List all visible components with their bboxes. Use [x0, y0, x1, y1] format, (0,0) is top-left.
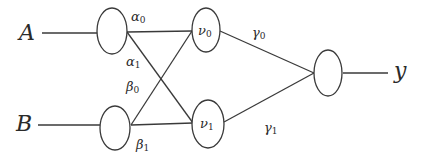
- edge-beta0: [131, 31, 192, 125]
- output-node: [314, 50, 342, 96]
- label-beta1: β1: [135, 137, 149, 153]
- label-beta0: β0: [125, 79, 140, 95]
- input-node-A: [97, 8, 127, 54]
- neural-network-diagram: A B y ν0 ν1 α0 α1 β0 β1 γ0 γ1: [0, 0, 430, 163]
- edge-beta1: [131, 123, 193, 125]
- label-y: y: [393, 58, 407, 83]
- label-A: A: [17, 20, 35, 45]
- label-gamma1: γ1: [264, 120, 278, 136]
- diagram-canvas: A B y ν0 ν1 α0 α1 β0 β1 γ0 γ1: [0, 0, 430, 163]
- label-B: B: [15, 111, 32, 136]
- edge-gamma0: [220, 31, 314, 73]
- edge-gamma1: [224, 73, 314, 122]
- input-node-B: [100, 106, 130, 150]
- label-alpha0: α0: [131, 9, 146, 25]
- edge-alpha0: [127, 31, 192, 32]
- label-gamma0: γ0: [252, 25, 266, 41]
- label-alpha1: α1: [126, 54, 141, 70]
